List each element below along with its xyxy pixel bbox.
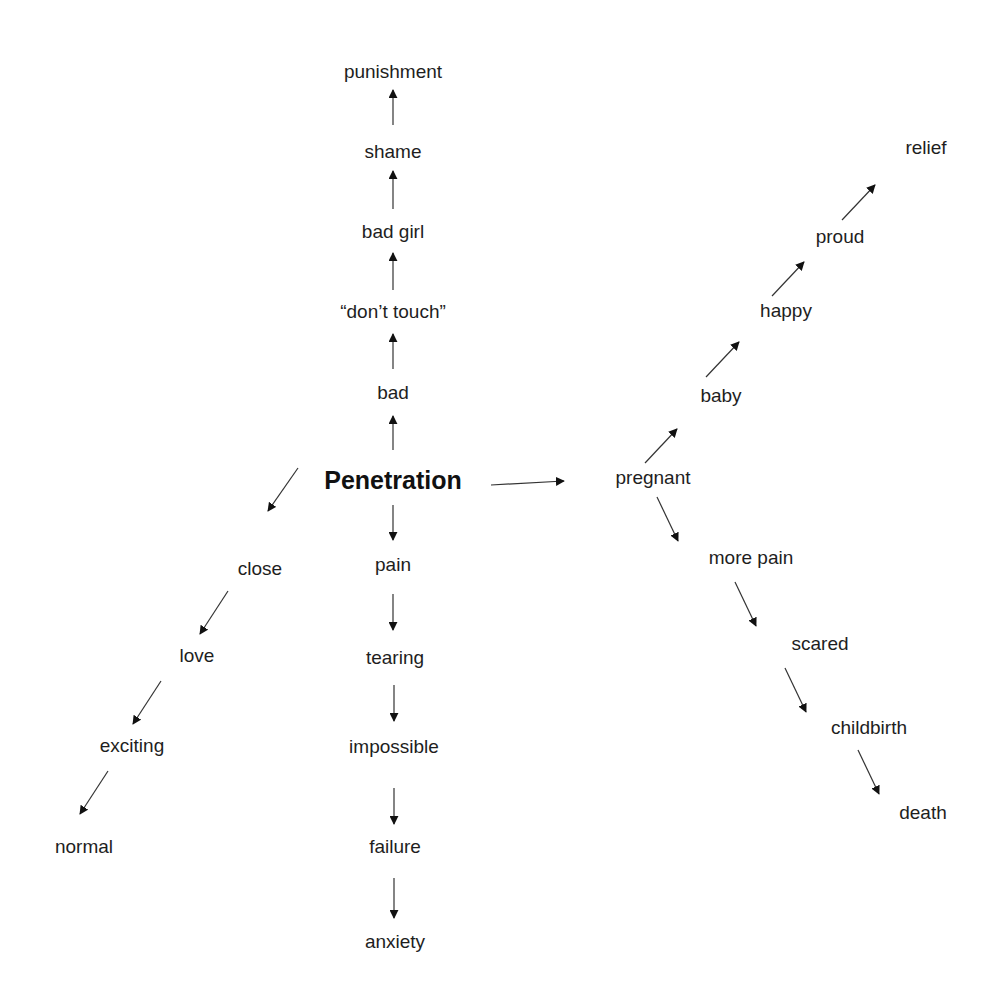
node-baby: baby: [700, 386, 741, 405]
node-bad-girl: bad girl: [362, 222, 424, 241]
node-scared: scared: [791, 634, 848, 653]
node-death: death: [899, 803, 947, 822]
node-exciting: exciting: [100, 736, 164, 755]
node-close: close: [238, 559, 282, 578]
node-shame: shame: [364, 142, 421, 161]
node-tearing: tearing: [366, 648, 424, 667]
arrow-icon: [80, 771, 108, 814]
node-proud: proud: [816, 227, 865, 246]
node-normal: normal: [55, 837, 113, 856]
node-anxiety: anxiety: [365, 932, 425, 951]
arrow-icon: [842, 185, 875, 220]
node-pregnant: pregnant: [615, 468, 690, 487]
arrow-icon: [200, 591, 228, 634]
arrow-icon: [657, 497, 678, 541]
arrow-icon: [735, 582, 756, 626]
node-pain: pain: [375, 555, 411, 574]
arrow-icon: [133, 681, 161, 724]
node-failure: failure: [369, 837, 421, 856]
node-more-pain: more pain: [709, 548, 794, 567]
arrow-group: [80, 90, 879, 918]
node-dont-touch: “don’t touch”: [340, 302, 446, 321]
node-punishment: punishment: [344, 62, 442, 81]
arrows-layer: [0, 0, 1007, 1001]
arrow-icon: [645, 429, 677, 463]
arrow-icon: [785, 668, 806, 712]
node-happy: happy: [760, 301, 812, 320]
arrow-icon: [706, 342, 739, 377]
node-bad: bad: [377, 383, 409, 402]
arrow-icon: [858, 750, 879, 794]
node-impossible: impossible: [349, 737, 439, 756]
arrow-icon: [772, 262, 804, 296]
node-relief: relief: [905, 138, 946, 157]
arrow-icon: [491, 481, 564, 485]
central-node-penetration: Penetration: [324, 468, 462, 493]
concept-map: Penetration bad “don’t touch” bad girl s…: [0, 0, 1007, 1001]
node-love: love: [180, 646, 215, 665]
arrow-icon: [268, 468, 298, 511]
node-childbirth: childbirth: [831, 718, 907, 737]
